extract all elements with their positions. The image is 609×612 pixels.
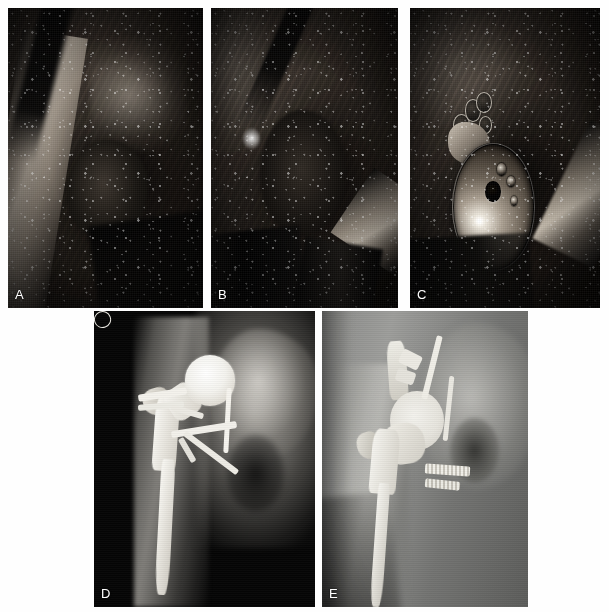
- panel-label-c: C: [417, 288, 427, 301]
- panel-b-film-grain: [211, 8, 398, 308]
- panel-c-film-grain: [410, 8, 600, 308]
- panel-e-radiograph[interactable]: E: [322, 311, 528, 607]
- panel-a-film-grain: [8, 8, 203, 308]
- panel-d-film-grain: [94, 311, 315, 607]
- panel-label-b: B: [218, 288, 227, 301]
- panel-d-radiograph[interactable]: D: [94, 311, 315, 607]
- figure-container: A B: [0, 0, 609, 612]
- panel-a-intraoperative-photo[interactable]: A: [8, 8, 203, 308]
- panel-e-film-grain: [322, 311, 528, 607]
- panel-label-a: A: [15, 288, 24, 301]
- panel-b-intraoperative-photo[interactable]: B: [211, 8, 398, 308]
- panel-c-intraoperative-photo[interactable]: C: [410, 8, 600, 308]
- panel-label-d: D: [101, 587, 111, 600]
- panel-label-e: E: [329, 587, 338, 600]
